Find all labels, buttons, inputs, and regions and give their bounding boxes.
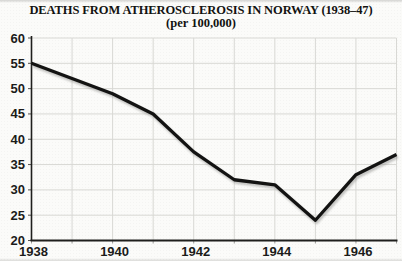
line-plot-canvas: 20253035404550556019381940194219441946 bbox=[0, 0, 402, 261]
x-tick-label: 1940 bbox=[100, 244, 129, 259]
x-tick-label: 1946 bbox=[343, 244, 372, 259]
y-tick-label: 50 bbox=[11, 81, 25, 96]
y-tick-label: 30 bbox=[11, 182, 25, 197]
y-tick-label: 60 bbox=[11, 31, 25, 46]
x-tick-label: 1944 bbox=[262, 244, 292, 259]
y-tick-label: 25 bbox=[11, 208, 25, 223]
y-tick-label: 45 bbox=[11, 106, 25, 121]
y-tick-label: 35 bbox=[11, 157, 25, 172]
chart-figure: DEATHS FROM ATHEROSCLEROSIS IN NORWAY (1… bbox=[0, 0, 402, 261]
y-tick-label: 40 bbox=[11, 132, 25, 147]
x-tick-label: 1938 bbox=[19, 244, 48, 259]
y-tick-label: 55 bbox=[11, 56, 25, 71]
x-tick-label: 1942 bbox=[181, 244, 210, 259]
